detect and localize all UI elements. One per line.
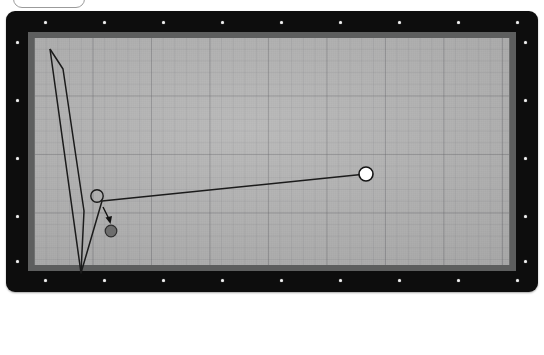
aim-line	[102, 174, 366, 201]
object-ball[interactable]	[105, 225, 117, 237]
top-rounded-widget[interactable]	[13, 0, 85, 8]
contact-arrow-icon	[103, 207, 112, 224]
shot-overlay[interactable]	[6, 11, 538, 292]
pool-table[interactable]	[6, 11, 538, 292]
shot-diagram-app: 2/5 AA 4	[0, 0, 544, 355]
cue-ball[interactable]	[359, 167, 373, 181]
shot-parameters-toolbar: 2/5 AA 4	[0, 296, 544, 355]
ghost-ball[interactable]	[91, 190, 103, 202]
